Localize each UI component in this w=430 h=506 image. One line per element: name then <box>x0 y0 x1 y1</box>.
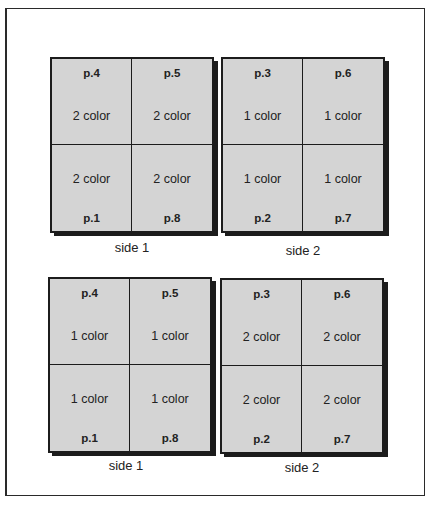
page-number: p.5 <box>132 67 212 79</box>
page-cell: 2 color p.1 <box>52 145 132 231</box>
page-number: p.4 <box>52 67 131 79</box>
color-count: 2 color <box>222 393 301 407</box>
page-number: p.6 <box>303 67 383 79</box>
page-number: p.3 <box>223 67 302 79</box>
page-cell: 1 color p.8 <box>130 365 210 451</box>
side-label: side 1 <box>44 458 208 473</box>
color-count: 2 color <box>52 172 131 186</box>
side-label: side 1 <box>50 240 214 255</box>
sheet-bottom-side1: p.4 1 color p.5 1 color 1 color p.1 1 co… <box>48 277 212 453</box>
page-cell: p.3 2 color <box>222 280 302 366</box>
page-number: p.5 <box>130 287 210 299</box>
side-label: side 2 <box>220 460 384 475</box>
page-number: p.7 <box>303 212 383 224</box>
sheet-top-side2: p.3 1 color p.6 1 color 1 color p.2 1 co… <box>221 57 385 233</box>
page-grid: p.4 2 color p.5 2 color 2 color p.1 2 co… <box>50 57 214 233</box>
page-number: p.2 <box>222 433 301 445</box>
color-count: 1 color <box>50 329 129 343</box>
page-cell: p.4 2 color <box>52 59 132 145</box>
page-grid: p.3 2 color p.6 2 color 2 color p.2 2 co… <box>220 278 384 454</box>
page-number: p.1 <box>52 212 131 224</box>
page-cell: p.5 2 color <box>132 59 212 145</box>
page-grid: p.3 1 color p.6 1 color 1 color p.2 1 co… <box>221 57 385 233</box>
page-number: p.8 <box>130 432 210 444</box>
color-count: 2 color <box>302 330 382 344</box>
color-count: 2 color <box>132 109 212 123</box>
page-cell: p.5 1 color <box>130 279 210 365</box>
page-cell: 2 color p.2 <box>222 366 302 452</box>
page-cell: 2 color p.7 <box>302 366 382 452</box>
page-number: p.3 <box>222 288 301 300</box>
color-count: 1 color <box>130 392 210 406</box>
page-cell: p.3 1 color <box>223 59 303 145</box>
page-cell: 1 color p.2 <box>223 145 303 231</box>
color-count: 1 color <box>303 109 383 123</box>
color-count: 1 color <box>223 172 302 186</box>
color-count: 2 color <box>302 393 382 407</box>
page-cell: 1 color p.7 <box>303 145 383 231</box>
color-count: 1 color <box>130 329 210 343</box>
page-grid: p.4 1 color p.5 1 color 1 color p.1 1 co… <box>48 277 212 453</box>
page-number: p.2 <box>223 212 302 224</box>
page-number: p.6 <box>302 288 382 300</box>
page-number: p.7 <box>302 433 382 445</box>
color-count: 1 color <box>50 392 129 406</box>
page-cell: p.4 1 color <box>50 279 130 365</box>
page-number: p.8 <box>132 212 212 224</box>
color-count: 2 color <box>52 109 131 123</box>
color-count: 2 color <box>222 330 301 344</box>
page-cell: p.6 1 color <box>303 59 383 145</box>
color-count: 2 color <box>132 172 212 186</box>
page-cell: p.6 2 color <box>302 280 382 366</box>
color-count: 1 color <box>303 172 383 186</box>
page-cell: 2 color p.8 <box>132 145 212 231</box>
side-label: side 2 <box>221 243 385 258</box>
page-number: p.1 <box>50 432 129 444</box>
sheet-bottom-side2: p.3 2 color p.6 2 color 2 color p.2 2 co… <box>220 278 384 454</box>
sheet-top-side1: p.4 2 color p.5 2 color 2 color p.1 2 co… <box>50 57 214 233</box>
page-number: p.4 <box>50 287 129 299</box>
color-count: 1 color <box>223 109 302 123</box>
page-cell: 1 color p.1 <box>50 365 130 451</box>
